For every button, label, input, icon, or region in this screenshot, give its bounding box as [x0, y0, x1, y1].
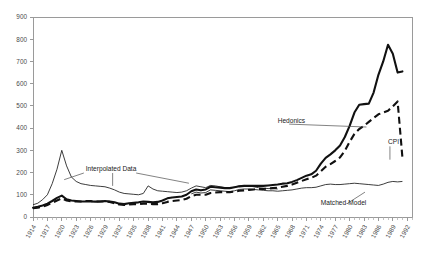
y-tick-label-100: 100: [16, 191, 27, 198]
annotation-interpolated-data: Interpolated Data: [86, 165, 137, 173]
y-tick-label-500: 500: [16, 102, 27, 109]
leader-line-interpolated-data-1: [136, 173, 189, 183]
x-tick-label-1929: 1929: [96, 223, 109, 239]
x-tick-label-1914: 1914: [24, 223, 37, 239]
y-tick-label-900: 900: [16, 13, 27, 20]
x-tick-label-1956: 1956: [225, 223, 238, 239]
chart-container: 0100200300400500600700800900 19141917192…: [0, 0, 429, 262]
y-tick-label-600: 600: [16, 80, 27, 87]
y-tick-label-0: 0: [23, 213, 27, 220]
x-tick-label-1947: 1947: [182, 223, 195, 239]
x-tick-label-1962: 1962: [254, 223, 267, 239]
x-tick-label-1920: 1920: [53, 223, 66, 239]
annotation-matched-model: Matched-Model: [321, 199, 367, 206]
x-tick-label-1959: 1959: [240, 223, 253, 239]
x-tick-label-1932: 1932: [110, 223, 123, 239]
x-tick-label-1971: 1971: [297, 223, 310, 239]
x-tick-label-1953: 1953: [211, 223, 224, 239]
x-tick-label-1986: 1986: [369, 223, 382, 239]
x-tick-label-1983: 1983: [355, 223, 368, 239]
x-tick-label-1938: 1938: [139, 223, 152, 239]
series-cpi: [33, 101, 402, 208]
x-tick-label-1944: 1944: [168, 223, 181, 239]
y-tick-label-300: 300: [16, 147, 27, 154]
x-tick-label-1968: 1968: [283, 223, 296, 239]
y-axis-tick-labels: 0100200300400500600700800900: [16, 13, 27, 220]
annotation-hedonics: Hedonics: [278, 117, 306, 124]
x-tick-label-1950: 1950: [197, 223, 210, 239]
y-tick-label-200: 200: [16, 169, 27, 176]
y-tick-label-700: 700: [16, 58, 27, 65]
x-tick-label-1989: 1989: [384, 223, 397, 239]
annotation-labels: HedonicsCPIInterpolated DataMatched-Mode…: [86, 117, 399, 207]
x-tick-label-1917: 1917: [38, 223, 51, 239]
x-tick-label-1935: 1935: [125, 223, 138, 239]
x-tick-label-1977: 1977: [326, 223, 339, 239]
x-tick-label-1980: 1980: [341, 223, 354, 239]
x-tick-label-1992: 1992: [398, 223, 411, 239]
x-tick-label-1974: 1974: [312, 223, 325, 239]
x-tick-label-1965: 1965: [269, 223, 282, 239]
annotation-cpi: CPI: [388, 138, 399, 145]
leader-line-interpolated-data-0: [64, 173, 84, 180]
x-axis-tick-labels: 1914191719201923192619291932193519381941…: [24, 223, 412, 239]
x-tick-label-1926: 1926: [81, 223, 94, 239]
x-axis-ticks: [33, 217, 407, 221]
leader-line-hedonics-0: [289, 124, 366, 127]
x-tick-label-1923: 1923: [67, 223, 80, 239]
y-tick-label-400: 400: [16, 124, 27, 131]
line-chart: 0100200300400500600700800900 19141917192…: [0, 0, 429, 262]
x-tick-label-1941: 1941: [153, 223, 166, 239]
y-tick-label-800: 800: [16, 36, 27, 43]
